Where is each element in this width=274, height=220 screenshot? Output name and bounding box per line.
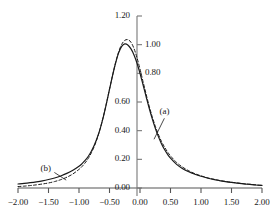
- axes-group: [18, 16, 262, 196]
- curve-label-a: (a): [159, 107, 169, 116]
- y-axis-tick-label: 0.00: [99, 183, 130, 192]
- series-curve-b: [18, 44, 262, 186]
- x-axis-ticks: [18, 188, 262, 193]
- series-curve-a: [18, 40, 262, 187]
- y-axis-tick-label: 0.80: [145, 68, 175, 77]
- x-axis-tick-label: 2.00: [244, 198, 274, 207]
- y-axis-tick-label: 0.60: [99, 97, 130, 106]
- y-axis-ticks: [137, 16, 142, 188]
- data-series-group: [18, 40, 262, 187]
- y-axis-tick-label: 0.20: [99, 154, 130, 163]
- leader-line-b: [54, 172, 66, 180]
- curve-label-b: (b): [41, 164, 52, 173]
- y-axis-tick-label: 1.20: [99, 11, 130, 20]
- y-axis-tick-label: 0.40: [99, 126, 130, 135]
- y-axis-tick-label: 1.00: [145, 40, 175, 49]
- chart-figure: −2.00−1.50−1.00−0.500.000.501.001.502.00…: [0, 0, 274, 220]
- chart-plot-area: [0, 0, 274, 220]
